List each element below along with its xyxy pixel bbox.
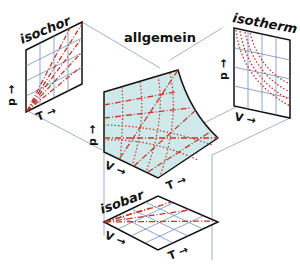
surface-t-label: T → — [164, 173, 188, 193]
isochor-panel: isochor p → T → — [5, 12, 82, 124]
isotherm-p-label: p → — [217, 59, 230, 80]
isotherm-v-label: V → — [233, 110, 257, 127]
pvt-diagram: isochor p → T → isotherm p → V → allgeme… — [0, 0, 300, 266]
allgemein-title: allgemein — [124, 30, 196, 45]
isobar-panel: isobar V → T → — [98, 187, 218, 263]
isochor-p-label: p → — [5, 85, 18, 106]
isobar-t-label: T → — [166, 243, 190, 263]
surface-outline — [104, 70, 218, 178]
isotherm-panel: isotherm p → V → — [217, 10, 298, 127]
surface-p-label: p → — [86, 125, 99, 146]
isochor-t-label: T → — [34, 104, 58, 124]
pvt-surface: p → V → T → — [86, 70, 218, 193]
